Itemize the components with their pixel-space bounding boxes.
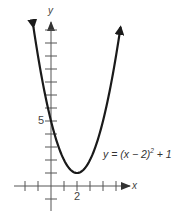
equation-prefix: y = (x − 2) [103,148,150,160]
equation-label: y = (x − 2)2 + 1 [103,148,172,159]
y-axis-label: y [48,6,53,16]
x-tick-label-2: 2 [74,191,80,202]
y-tick-label-5: 5 [38,115,44,126]
x-axis-label: x [132,181,137,191]
parabola-graph [0,0,184,222]
equation-suffix: + 1 [154,148,172,160]
